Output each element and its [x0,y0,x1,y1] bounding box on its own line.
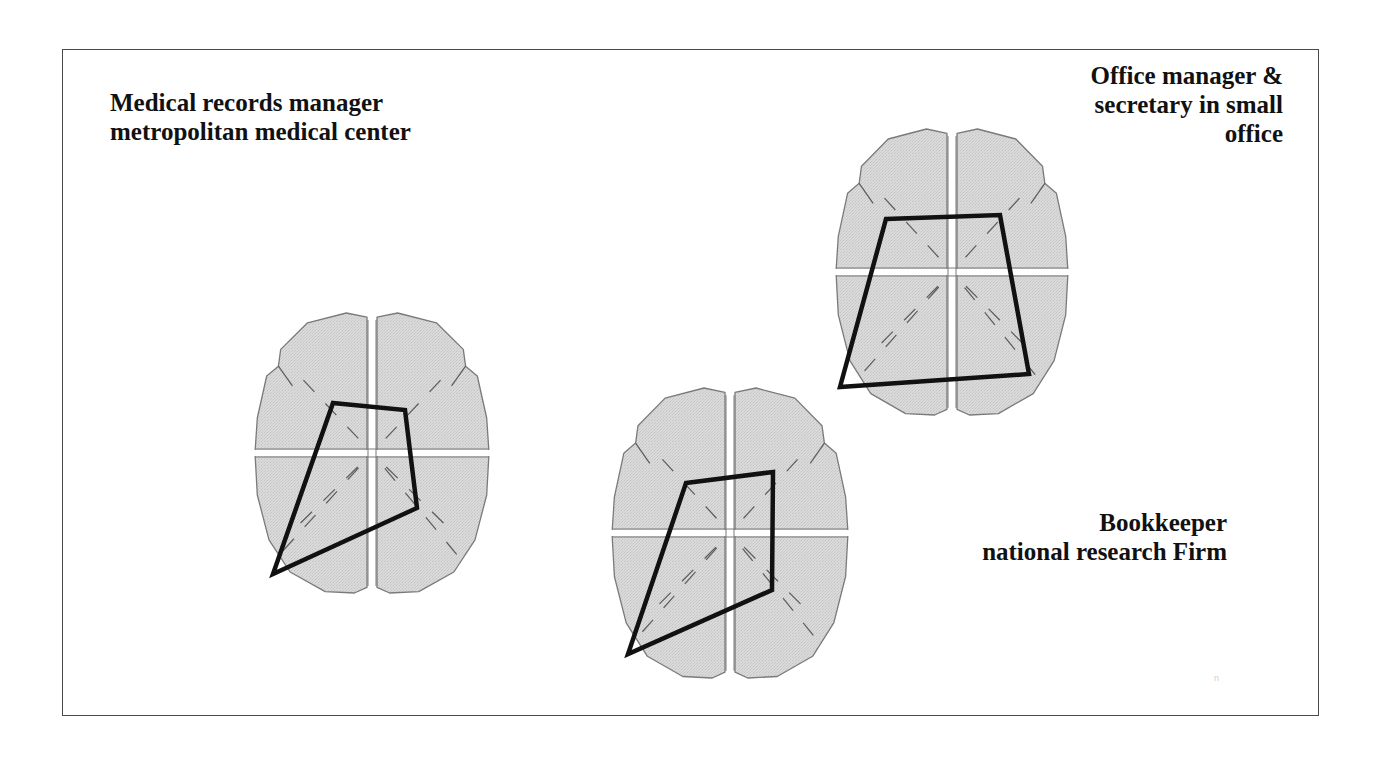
label-line: office [1090,119,1283,148]
label-line: Office manager & [1090,61,1283,90]
label-line: Medical records manager [110,88,411,117]
label-line: Bookkeeper [982,508,1227,537]
horizontal-divider [610,530,850,536]
brain-bookkeeper [610,388,850,678]
label-line: secretary in small [1090,90,1283,119]
office-manager-label: Office manager & secretary in small offi… [1090,61,1283,148]
label-line: metropolitan medical center [110,117,411,146]
label-line: national research Firm [982,537,1227,566]
brain-medical-records-manager [253,313,491,593]
horizontal-divider [253,450,491,456]
bookkeeper-label: Bookkeeper national research Firm [982,508,1227,566]
brain-office-manager [834,129,1070,415]
medical-records-manager-label: Medical records manager metropolitan med… [110,88,411,146]
faint-mark: n [1214,673,1219,683]
